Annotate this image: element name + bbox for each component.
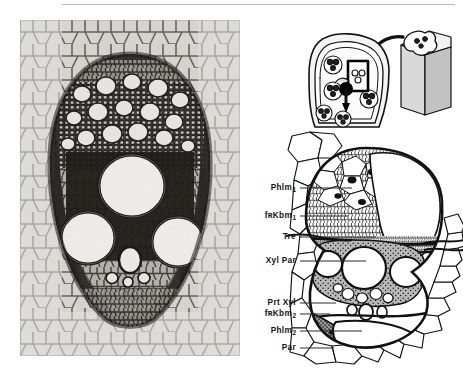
- label-prt-xyl: Prt Xyl: [216, 299, 296, 307]
- label-prt-xyl-text: Prt Xyl: [268, 298, 296, 307]
- stem-cross-section-schematic: [309, 34, 389, 127]
- leader-prt-xyl: [300, 303, 336, 304]
- label-par: Par: [216, 344, 296, 352]
- label-fzkbm-1-text: fʀKbm: [265, 211, 292, 220]
- label-tre: Tre: [216, 233, 296, 241]
- stem-block-3d: [401, 31, 451, 115]
- vascular-bundle-schematic-panel: [292, 132, 460, 364]
- label-xyl-par-text: Xyl Par: [266, 256, 296, 265]
- vascular-bundle-schematic-drawing: [292, 132, 460, 364]
- label-phlm-2-text: Phlm: [271, 326, 292, 335]
- label-phlm-1-text: Phlm: [271, 183, 292, 192]
- figure-root: Phlm1 fʀKbm1 Tre Xyl Par Prt Xyl fʀKbm2 …: [0, 0, 463, 373]
- leader-fzkbm-1: [300, 216, 348, 217]
- label-phlm-1-subscript: 1: [293, 185, 297, 192]
- label-phlm-2: Phlm2: [216, 327, 296, 335]
- micrograph-image: [20, 20, 240, 356]
- top-rule-divider: [62, 4, 455, 5]
- light-micrograph-panel: [20, 20, 240, 356]
- label-xyl-par: Xyl Par: [216, 257, 296, 265]
- orientation-inset-drawing: [305, 15, 460, 135]
- leader-par: [300, 348, 334, 349]
- label-fzkbm-1: fʀKbm1: [216, 212, 296, 220]
- label-fzkbm-2: fʀKbm2: [216, 310, 296, 318]
- orientation-inset-panel: [305, 15, 460, 135]
- leader-fzkbm-2: [300, 314, 330, 315]
- leader-xyl-par: [300, 261, 366, 262]
- leader-phlm-2: [300, 331, 362, 332]
- label-phlm-2-subscript: 2: [293, 328, 297, 335]
- label-tre-text: Tre: [283, 232, 296, 241]
- label-fzkbm-1-subscript: 1: [293, 213, 297, 220]
- label-fzkbm-2-text: fʀKbm: [265, 309, 292, 318]
- label-phlm-1: Phlm1: [216, 184, 296, 192]
- leader-tre: [300, 237, 376, 238]
- label-par-text: Par: [282, 343, 296, 352]
- leader-phlm-1: [300, 188, 352, 189]
- label-fzkbm-2-subscript: 2: [293, 311, 297, 318]
